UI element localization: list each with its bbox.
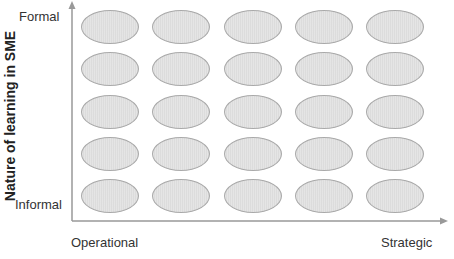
ellipse-cell [224, 52, 282, 86]
x-axis-left-label: Operational [71, 235, 138, 250]
ellipse-cell [295, 137, 353, 171]
y-axis-title: Nature of learning in SME [2, 31, 18, 201]
ellipse-cell [81, 95, 139, 129]
ellipse-cell [224, 179, 282, 213]
ellipse-cell [152, 10, 210, 44]
ellipse-cell [366, 137, 424, 171]
ellipse-cell [366, 95, 424, 129]
y-axis-bottom-label: Informal [15, 197, 62, 212]
learning-matrix-diagram: Nature of learning in SME Formal Informa… [0, 0, 454, 259]
ellipse-cell [295, 10, 353, 44]
ellipse-cell [81, 179, 139, 213]
x-axis-right-label: Strategic [381, 235, 432, 250]
ellipse-cell [224, 10, 282, 44]
ellipse-cell [224, 137, 282, 171]
ellipse-cell [295, 52, 353, 86]
ellipse-cell [224, 95, 282, 129]
ellipse-cell [81, 10, 139, 44]
x-axis-arrow-icon [440, 218, 448, 225]
ellipse-cell [152, 137, 210, 171]
y-axis-arrow-icon [69, 1, 76, 9]
y-axis-top-label: Formal [19, 9, 59, 24]
ellipse-cell [295, 179, 353, 213]
ellipse-cell [152, 95, 210, 129]
ellipse-cell [295, 95, 353, 129]
ellipse-cell [81, 137, 139, 171]
ellipse-cell [366, 10, 424, 44]
